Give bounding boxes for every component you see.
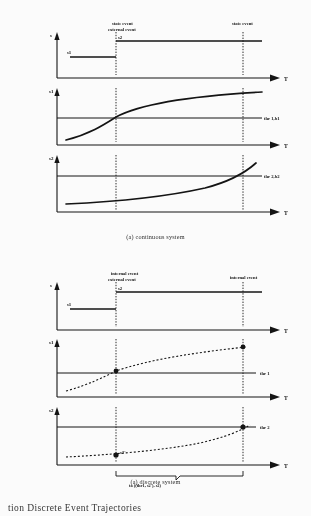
event-point-s1-first	[114, 369, 119, 374]
event-label-left-line2: external event	[108, 27, 136, 32]
panel-s2-discrete: s2 T thr 2 s2'	[49, 407, 288, 469]
panel2d-x-axis-label: T	[284, 395, 288, 401]
panel2-x-axis-label: T	[284, 143, 288, 149]
event-label-left-line2-discrete: external event	[108, 277, 136, 282]
panel-state-continuous: s T s1 s2	[50, 32, 288, 82]
panel3-x-axis-label: T	[284, 210, 288, 216]
continuous-system-svg: state event external event state event s…	[0, 0, 311, 250]
event-label-left-line1-discrete: internal event	[111, 271, 139, 276]
event-marker-lines	[116, 32, 243, 210]
discrete-system-svg: internal event external event internal e…	[0, 255, 311, 500]
panel-state-discrete: s T s1 s2	[50, 282, 288, 334]
panel-s1-continuous: s1 T thr 1,b1	[49, 88, 288, 149]
panel-s1-discrete: s1 T thr 1	[49, 339, 288, 401]
panel2-threshold-label: thr 1,b1	[264, 116, 280, 121]
panel1-y-axis-label: s	[50, 33, 52, 38]
panel1-state-after-label: s2	[118, 35, 123, 40]
panel3-y-axis-label: s2	[49, 156, 54, 161]
panel3d-threshold-label: thr 2	[260, 425, 270, 430]
panel3d-y-axis-label: s2	[49, 408, 54, 413]
event-point-s2-second	[240, 424, 245, 429]
figure-continuous-system: state event external event state event s…	[0, 0, 311, 250]
event-point-s1-second	[241, 345, 246, 350]
page-bottom-caption: tion Discrete Event Trajectories	[8, 503, 141, 515]
event-label-right-line1-discrete: internal event	[230, 275, 258, 280]
figure-a-caption: (a) continuous system	[0, 233, 311, 240]
panel2d-y-axis-label: s1	[49, 340, 54, 345]
panel2d-threshold-label: thr 1	[260, 371, 270, 376]
panel2-y-axis-label: s1	[49, 89, 54, 94]
event-label-left-line1: state event	[112, 21, 133, 26]
event-label-right-line1: state event	[232, 21, 253, 26]
panel1d-state-after-label: s2	[118, 286, 123, 291]
event-point-s2-first	[113, 452, 118, 457]
panel3d-x-axis-label: T	[284, 463, 288, 469]
panel-s2-continuous: s2 T thr 2,b2	[49, 155, 288, 216]
figure-discrete-system: internal event external event internal e…	[0, 255, 311, 500]
panel3d-marker-label: s2'	[120, 450, 126, 455]
panel1d-state-before-label: s1	[67, 302, 72, 307]
panel1-x-axis-label: T	[284, 76, 288, 82]
figure-b-caption: (a) discrete system	[0, 478, 311, 485]
panel1-state-before-label: s1	[67, 50, 72, 55]
panel1d-x-axis-label: T	[284, 328, 288, 334]
panel3-threshold-label: thr 2,b2	[264, 174, 280, 179]
panel1d-y-axis-label: s	[50, 283, 52, 288]
